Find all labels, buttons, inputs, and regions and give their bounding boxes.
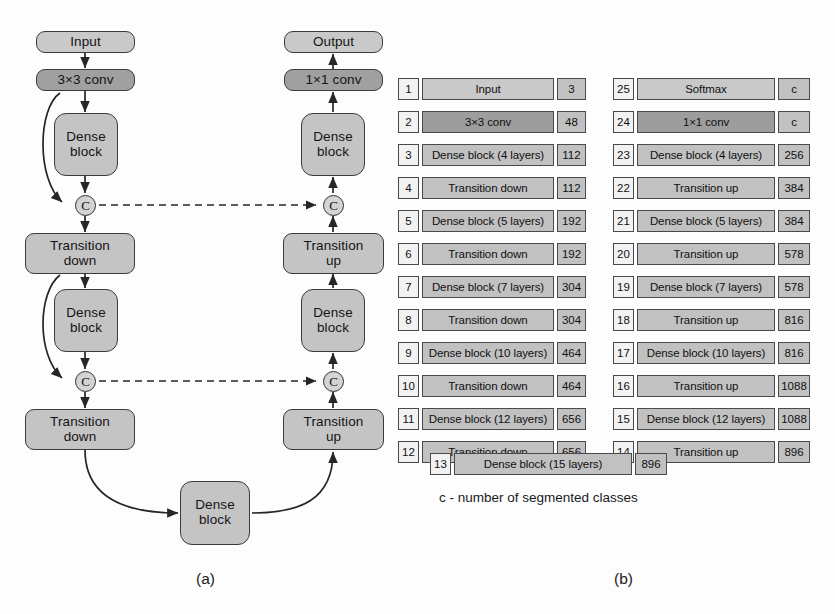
row-index: 16: [613, 375, 634, 397]
table-row[interactable]: 8Transition down304: [398, 309, 586, 331]
row-name: Dense block (15 layers): [454, 453, 632, 475]
row-index: 20: [613, 243, 634, 265]
panel-b-layer-table: 1Input323×3 conv483Dense block (4 layers…: [390, 0, 835, 614]
table-row[interactable]: 11Dense block (12 layers)656: [398, 408, 586, 430]
row-index: 18: [613, 309, 634, 331]
row-index: 24: [613, 111, 634, 133]
row-channels: 816: [778, 309, 810, 331]
row-index: 7: [398, 276, 419, 298]
row-channels: c: [778, 111, 810, 133]
row-index: 19: [613, 276, 634, 298]
table-row[interactable]: 23Dense block (4 layers)256: [613, 144, 810, 166]
row-name: Transition down: [422, 309, 554, 331]
table-row[interactable]: 19Dense block (7 layers)578: [613, 276, 810, 298]
row-name: Transition down: [422, 375, 554, 397]
node-dense-block-up-1: Dense block: [301, 113, 365, 176]
table-row[interactable]: 3Dense block (4 layers)112: [398, 144, 586, 166]
row-name: Transition up: [637, 243, 775, 265]
node-transition-down-1: Transition down: [25, 233, 135, 274]
table-row[interactable]: 22Transition up384: [613, 177, 810, 199]
table-row[interactable]: 23×3 conv48: [398, 111, 586, 133]
table-row[interactable]: 21Dense block (5 layers)384: [613, 210, 810, 232]
row-name: Dense block (10 layers): [637, 342, 775, 364]
concat-node-4: C: [323, 371, 344, 392]
concat-node-2: C: [75, 371, 96, 392]
row-channels: 578: [778, 243, 810, 265]
row-channels: 896: [635, 453, 667, 475]
row-channels: 112: [557, 177, 586, 199]
layer-table-bottleneck-row: 13 Dense block (15 layers) 896: [430, 453, 667, 475]
row-index: 23: [613, 144, 634, 166]
row-index: 5: [398, 210, 419, 232]
row-channels: 464: [557, 342, 586, 364]
row-channels: 464: [557, 375, 586, 397]
node-transition-up-1: Transition up: [283, 233, 384, 274]
caption-b: (b): [614, 570, 633, 588]
row-name: Dense block (4 layers): [637, 144, 775, 166]
row-name: Softmax: [637, 78, 775, 100]
table-row[interactable]: 1Input3: [398, 78, 586, 100]
panel-a-flow-diagram: Input 3×3 conv Dense block C Transition …: [0, 0, 410, 614]
row-channels: 192: [557, 243, 586, 265]
row-name: Transition down: [422, 177, 554, 199]
row-name: Transition up: [637, 309, 775, 331]
table-row[interactable]: 7Dense block (7 layers)304: [398, 276, 586, 298]
table-row[interactable]: 5Dense block (5 layers)192: [398, 210, 586, 232]
row-index: 6: [398, 243, 419, 265]
node-dense-block-bottleneck: Dense block: [180, 481, 250, 545]
row-channels: 256: [778, 144, 810, 166]
row-channels: c: [778, 78, 810, 100]
row-index: 4: [398, 177, 419, 199]
row-name: 1×1 conv: [637, 111, 775, 133]
row-index: 17: [613, 342, 634, 364]
table-row[interactable]: 6Transition down192: [398, 243, 586, 265]
row-name: 3×3 conv: [422, 111, 554, 133]
table-row[interactable]: 18Transition up816: [613, 309, 810, 331]
node-dense-block-down-1: Dense block: [54, 113, 118, 176]
row-name: Transition up: [637, 375, 775, 397]
node-input: Input: [36, 31, 135, 53]
row-name: Dense block (7 layers): [422, 276, 554, 298]
row-channels: 656: [557, 408, 586, 430]
row-channels: 816: [778, 342, 810, 364]
table-row[interactable]: 17Dense block (10 layers)816: [613, 342, 810, 364]
table-row[interactable]: 241×1 convc: [613, 111, 810, 133]
row-index: 11: [398, 408, 419, 430]
figure-root: Input 3×3 conv Dense block C Transition …: [0, 0, 835, 614]
node-conv-1x1: 1×1 conv: [284, 69, 383, 91]
node-transition-down-2: Transition down: [25, 409, 135, 450]
caption-a: (a): [196, 570, 215, 588]
row-channels: 304: [557, 309, 586, 331]
row-channels: 1088: [778, 375, 810, 397]
row-index: 1: [398, 78, 419, 100]
row-name: Input: [422, 78, 554, 100]
row-name: Dense block (5 layers): [422, 210, 554, 232]
table-row[interactable]: 10Transition down464: [398, 375, 586, 397]
row-index: 2: [398, 111, 419, 133]
table-row[interactable]: 16Transition up1088: [613, 375, 810, 397]
row-index: 8: [398, 309, 419, 331]
row-channels: 384: [778, 210, 810, 232]
concat-node-1: C: [75, 195, 96, 216]
row-channels: 896: [778, 441, 810, 463]
legend-text: c - number of segmented classes: [439, 490, 638, 505]
row-name: Transition up: [637, 177, 775, 199]
row-name: Dense block (7 layers): [637, 276, 775, 298]
row-channels: 192: [557, 210, 586, 232]
row-name: Transition down: [422, 243, 554, 265]
row-name: Dense block (12 layers): [637, 408, 775, 430]
row-channels: 48: [557, 111, 586, 133]
table-row[interactable]: 15Dense block (12 layers)1088: [613, 408, 810, 430]
table-row[interactable]: 20Transition up578: [613, 243, 810, 265]
row-index: 15: [613, 408, 634, 430]
table-row[interactable]: 25Softmaxc: [613, 78, 810, 100]
table-row[interactable]: 4Transition down112: [398, 177, 586, 199]
row-index: 9: [398, 342, 419, 364]
node-transition-up-2: Transition up: [283, 409, 384, 450]
row-index: 10: [398, 375, 419, 397]
table-row[interactable]: 9Dense block (10 layers)464: [398, 342, 586, 364]
row-name: Dense block (12 layers): [422, 408, 554, 430]
node-output: Output: [284, 31, 383, 53]
row-name: Dense block (5 layers): [637, 210, 775, 232]
row-index: 3: [398, 144, 419, 166]
